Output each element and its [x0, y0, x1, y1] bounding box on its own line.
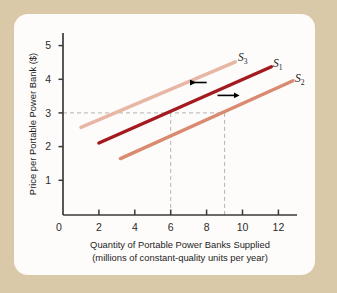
- y-tick-label-3: 3: [45, 107, 51, 119]
- curve-label-s3: S3: [238, 51, 248, 66]
- x-tick-label-8: 8: [204, 221, 210, 233]
- y-tick-label-5: 5: [45, 39, 51, 51]
- curve-labels: S3 S1 S2: [238, 51, 305, 87]
- x-tick-label-4: 4: [132, 221, 138, 233]
- x-tick-label-12: 12: [273, 221, 285, 233]
- y-tick-label-2: 2: [45, 140, 51, 152]
- curve-s1: [99, 67, 272, 143]
- curve-s2: [120, 81, 293, 159]
- x-axis-tick-labels: 0 2 4 6 8 10 12: [56, 221, 284, 233]
- x-axis-title-line2: (millions of constant-quality units per …: [92, 252, 268, 263]
- x-tick-label-6: 6: [168, 221, 174, 233]
- y-tick-label-1: 1: [45, 174, 51, 186]
- curve-label-s2: S2: [295, 72, 305, 87]
- supply-curve-figure: S3 S1 S2: [0, 0, 337, 293]
- curve-label-s1: S1: [273, 57, 283, 72]
- axes: 5 4 3 2 1 0 2 4 6 8 10: [45, 33, 297, 233]
- y-axis-title: Price per Portable Power Bank ($): [27, 53, 38, 195]
- y-tick-label-4: 4: [45, 73, 51, 85]
- x-tick-label-0: 0: [56, 221, 62, 233]
- reference-lines: [63, 113, 225, 215]
- x-tick-label-2: 2: [96, 221, 102, 233]
- x-axis-title-line1: Quantity of Portable Power Banks Supplie…: [90, 239, 270, 250]
- y-axis-tick-labels: 5 4 3 2 1: [45, 39, 51, 186]
- supply-shift-chart: S3 S1 S2: [0, 0, 337, 293]
- x-tick-label-10: 10: [237, 221, 249, 233]
- supply-curves: [81, 62, 293, 159]
